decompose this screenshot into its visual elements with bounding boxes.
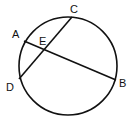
label-d: D (6, 81, 14, 93)
label-b: B (119, 77, 126, 89)
circle-diagram: A C D B E (0, 0, 130, 123)
label-a: A (12, 28, 20, 40)
chord-ab (24, 41, 116, 80)
label-c: C (70, 3, 78, 15)
diagram-canvas: A C D B E (0, 0, 130, 123)
chord-cd (19, 17, 72, 79)
label-e: E (39, 35, 46, 47)
circle (19, 17, 117, 115)
